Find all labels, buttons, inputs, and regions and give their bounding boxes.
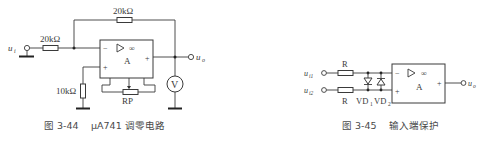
r2-label: R <box>342 96 348 106</box>
resistor-input-20k <box>43 46 58 51</box>
potentiometer-rp <box>123 90 138 95</box>
output-terminal <box>461 81 466 86</box>
input1-terminal <box>322 71 327 76</box>
output-plus-sign: + <box>437 79 442 88</box>
input-terminal-ui: u i <box>8 43 34 57</box>
infinity-gain: ∞ <box>129 44 135 53</box>
junction-dot <box>174 56 177 59</box>
resistor-feedback-20k <box>117 18 132 23</box>
input-label: u <box>8 43 13 53</box>
vd1-label-sub: 1 <box>370 101 373 107</box>
figure-3-45-input-protection: u i1 u i2 R R VD 1 VD 2 <box>304 59 476 131</box>
input1-label: u <box>304 69 308 78</box>
figure-caption-number: 图 3-44 <box>44 120 79 131</box>
output-terminal <box>188 54 193 59</box>
resistor-r1 <box>338 71 353 76</box>
input-label-sub: i <box>14 48 16 54</box>
r-feedback-label: 20kΩ <box>113 6 134 16</box>
voltmeter-label: V <box>171 79 179 90</box>
rp-label: RP <box>122 96 133 106</box>
input2-label: u <box>304 86 308 95</box>
minus-sign: − <box>103 44 108 53</box>
input2-label-sub: i2 <box>309 90 314 96</box>
figure-caption-number: 图 3-45 <box>342 120 377 131</box>
r-ground-label: 10kΩ <box>56 86 77 96</box>
plus-sign: + <box>103 63 108 72</box>
input2-terminal <box>322 88 327 93</box>
minus-sign: − <box>395 69 400 78</box>
figure-caption-title: 输入端保护 <box>389 120 439 131</box>
input1-label-sub: i1 <box>309 73 314 79</box>
r-input-label: 20kΩ <box>40 34 61 44</box>
diode-vd2-icon <box>377 73 385 90</box>
r1-label: R <box>342 59 348 69</box>
figure-caption-title: μA741 调零电路 <box>91 120 165 131</box>
vd2-label: VD <box>374 96 386 106</box>
infinity-gain: ∞ <box>421 69 427 78</box>
plus-sign: + <box>395 87 400 96</box>
output-label-sub: o <box>202 57 205 63</box>
opamp-a: − + ∞ A + <box>392 64 445 103</box>
output-label: u <box>468 79 472 88</box>
opamp-label: A <box>416 82 423 92</box>
output-label: u <box>196 52 201 62</box>
output-plus-sign: + <box>145 54 150 63</box>
opamp-a: − + ∞ A + <box>100 40 153 78</box>
resistor-r2 <box>338 88 353 93</box>
wiper-arrow-icon <box>127 86 131 89</box>
resistor-ground-10k <box>81 84 86 98</box>
diode-vd1-icon <box>364 73 372 90</box>
opamp-label: A <box>124 56 131 66</box>
output-label-sub: o <box>473 83 476 89</box>
vd2-label-sub: 2 <box>388 101 391 107</box>
figure-3-44-null-adjust-circuit: u i 20kΩ 20kΩ − + ∞ A + <box>8 6 205 131</box>
vd1-label: VD <box>356 96 368 106</box>
